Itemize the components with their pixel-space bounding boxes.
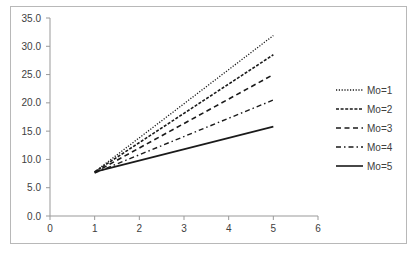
series-line-mo2 [95,55,274,172]
x-tick-label: 1 [92,223,98,234]
y-tick-label: 35.0 [22,13,42,24]
series-line-mo1 [95,36,274,172]
legend-label-mo4: Mo=4 [367,142,393,153]
legend-label-mo5: Mo=5 [367,161,393,172]
series-group [95,36,274,173]
y-tick-label: 15.0 [22,126,42,137]
legend: Mo=1Mo=2Mo=3Mo=4Mo=5 [336,85,393,172]
y-tick-label: 20.0 [22,97,42,108]
y-tick-label: 10.0 [22,154,42,165]
x-tick-label: 6 [315,223,321,234]
legend-label-mo1: Mo=1 [367,85,393,96]
y-tick-label: 25.0 [22,69,42,80]
y-tick-label: 0.0 [27,211,41,222]
series-line-mo3 [95,75,274,173]
y-tick-label: 5.0 [27,182,41,193]
x-tick-label: 2 [137,223,143,234]
x-tick-label: 0 [47,223,53,234]
legend-label-mo3: Mo=3 [367,123,393,134]
series-line-mo5 [95,127,274,172]
axes: 0.05.010.015.020.025.030.035.00123456 [22,13,322,235]
y-tick-label: 30.0 [22,41,42,52]
legend-label-mo2: Mo=2 [367,104,393,115]
series-line-mo4 [95,100,274,173]
x-tick-label: 3 [181,223,187,234]
line-chart: 0.05.010.015.020.025.030.035.00123456 Mo… [0,0,412,254]
x-tick-label: 5 [271,223,277,234]
x-tick-label: 4 [226,223,232,234]
